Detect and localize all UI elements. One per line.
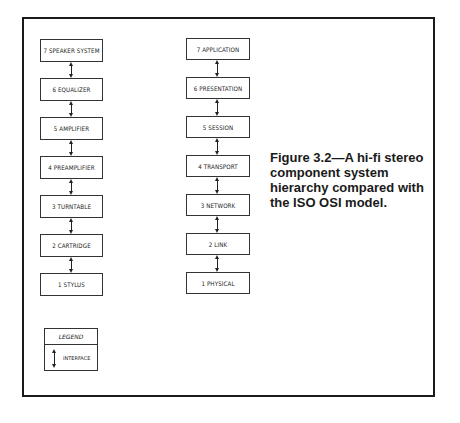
hifi-layer-7: 7 SPEAKER SYSTEM — [40, 39, 103, 62]
hifi-layer-2: 2 CARTRIDGE — [40, 234, 103, 257]
legend-item-label: INTERFACE — [63, 355, 90, 361]
interface-arrow-icon — [214, 60, 221, 77]
hifi-layer-6: 6 EQUALIZER — [40, 78, 103, 101]
interface-arrow-icon — [214, 177, 221, 194]
legend-title: LEGEND — [45, 329, 97, 345]
caption-line: Figure 3.2—A hi-fi stereo — [270, 150, 435, 165]
interface-arrow-icon — [214, 216, 221, 233]
hifi-layer-1: 1 STYLUS — [40, 273, 103, 296]
interface-arrow-icon — [214, 138, 221, 155]
legend: LEGEND INTERFACE — [44, 328, 98, 371]
interface-arrow-icon — [68, 62, 75, 78]
interface-arrow-icon — [214, 99, 221, 116]
caption-line: component system — [270, 165, 435, 180]
legend-item: INTERFACE — [45, 345, 97, 372]
caption-line: hierarchy compared with — [270, 180, 435, 195]
osi-layer-7: 7 APPLICATION — [186, 38, 250, 60]
hifi-layer-4: 4 PREAMPLIFIER — [40, 156, 103, 179]
osi-layer-3: 3 NETWORK — [186, 194, 250, 216]
osi-layer-2: 2 LINK — [186, 233, 250, 255]
osi-layer-5: 5 SESSION — [186, 116, 250, 138]
hifi-layer-5: 5 AMPLIFIER — [40, 117, 103, 140]
interface-arrow-icon — [68, 140, 75, 156]
interface-arrow-icon — [68, 179, 75, 195]
osi-layer-4: 4 TRANSPORT — [186, 155, 250, 177]
interface-arrow-icon — [68, 101, 75, 117]
osi-layer-6: 6 PRESENTATION — [186, 77, 250, 99]
figure-caption: Figure 3.2—A hi-fi stereo component syst… — [270, 150, 435, 210]
osi-layer-1: 1 PHYSICAL — [186, 272, 250, 294]
double-arrow-icon — [51, 349, 58, 368]
interface-arrow-icon — [214, 255, 221, 272]
interface-arrow-icon — [68, 257, 75, 273]
hifi-layer-3: 3 TURNTABLE — [40, 195, 103, 218]
caption-line: the ISO OSI model. — [270, 195, 435, 210]
interface-arrow-icon — [68, 218, 75, 234]
